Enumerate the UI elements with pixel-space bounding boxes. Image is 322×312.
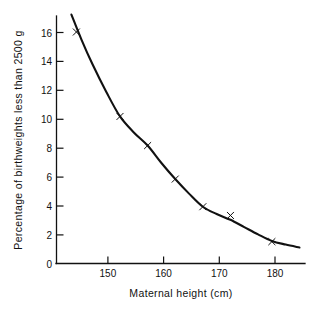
y-tick-label-14: 14 bbox=[41, 56, 53, 67]
y-axis-title: Percentage of birthweights less than 250… bbox=[12, 30, 24, 249]
y-tick-label-6: 6 bbox=[46, 172, 52, 183]
y-tick-label-16: 16 bbox=[41, 28, 53, 39]
y-axis-tick-labels: 16 14 12 10 8 6 4 2 0 bbox=[41, 28, 53, 270]
x-tick-label-150: 150 bbox=[100, 268, 117, 279]
x-tick-label-160: 160 bbox=[155, 268, 172, 279]
x-axis-tick-labels: 150 160 170 180 bbox=[100, 268, 284, 279]
y-tick-label-10: 10 bbox=[41, 114, 53, 125]
y-tick-label-0: 0 bbox=[46, 259, 52, 270]
y-tick-label-8: 8 bbox=[46, 143, 52, 154]
x-tick-label-170: 170 bbox=[211, 268, 228, 279]
chart-figure: Percentage of birthweights less than 250… bbox=[0, 0, 322, 312]
data-point-marker-4 bbox=[200, 204, 206, 210]
data-markers bbox=[73, 29, 275, 245]
y-tick-label-4: 4 bbox=[46, 201, 52, 212]
data-point-marker-3 bbox=[172, 176, 178, 182]
y-tick-label-12: 12 bbox=[41, 85, 53, 96]
y-axis-ticks bbox=[57, 33, 64, 235]
x-tick-label-180: 180 bbox=[267, 268, 284, 279]
data-point-marker-1 bbox=[117, 113, 123, 119]
x-axis-title: Maternal height (cm) bbox=[129, 287, 232, 299]
x-axis-ticks bbox=[108, 257, 275, 264]
y-tick-label-2: 2 bbox=[46, 230, 52, 241]
data-point-marker-5 bbox=[227, 212, 233, 218]
chart-plot-area: Percentage of birthweights less than 250… bbox=[0, 0, 322, 312]
data-point-marker-2 bbox=[144, 142, 150, 148]
fitted-curve bbox=[71, 15, 299, 248]
